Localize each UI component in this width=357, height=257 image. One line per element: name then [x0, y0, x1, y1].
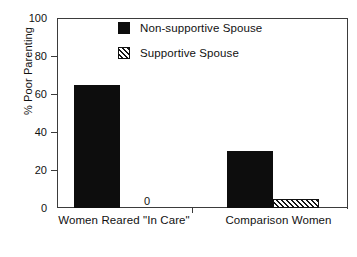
bar-comparison-supportive — [273, 199, 319, 209]
legend-item-supportive: Supportive Spouse — [118, 45, 262, 61]
x-category-label-comparison: Comparison Women — [206, 214, 351, 226]
x-tick-mark-mid — [192, 208, 193, 213]
legend-item-non-supportive: Non-supportive Spouse — [118, 20, 262, 36]
legend-swatch-hatch-icon — [118, 47, 130, 59]
legend: Non-supportive Spouse Supportive Spouse — [118, 20, 262, 70]
legend-swatch-solid-icon — [118, 22, 130, 34]
plot-frame-top — [57, 18, 348, 19]
bar-comparison-non-supportive — [227, 151, 273, 208]
bar-in-care-supportive-zero-label: 0 — [144, 196, 150, 207]
y-tick-label-0: 0 — [7, 203, 47, 214]
y-tick-label-100: 100 — [7, 13, 47, 24]
legend-label-non-supportive: Non-supportive Spouse — [140, 22, 262, 34]
y-tick-label-60: 60 — [7, 89, 47, 100]
plot-frame-right — [347, 18, 348, 209]
y-tick-label-80: 80 — [7, 51, 47, 62]
y-tick-label-40: 40 — [7, 127, 47, 138]
y-tick-label-20: 20 — [7, 165, 47, 176]
bar-chart: % Poor Parenting 100 80 60 40 20 0 0 Wom… — [0, 0, 357, 257]
legend-label-supportive: Supportive Spouse — [140, 47, 239, 59]
x-category-label-in-care: Women Reared "In Care" — [44, 214, 204, 226]
bar-in-care-non-supportive — [74, 85, 120, 209]
